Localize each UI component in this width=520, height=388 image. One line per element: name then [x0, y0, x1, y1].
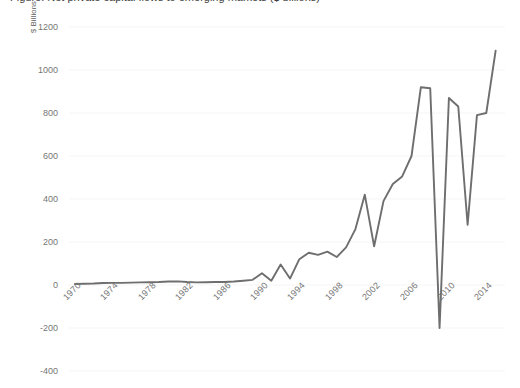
plot-area: [0, 0, 520, 388]
chart-container: Figure: Net private capital flows to eme…: [0, 0, 520, 388]
data-line-net-capital-flows: [75, 51, 496, 328]
